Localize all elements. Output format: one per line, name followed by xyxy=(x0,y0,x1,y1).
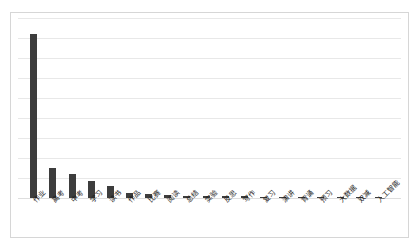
x-axis-labels: 作业高考中考学习读书作品比赛阅读总结实验反思写作复习演讲背诵预习大数据双减人工智… xyxy=(18,199,401,239)
chart-frame: 作业高考中考学习读书作品比赛阅读总结实验反思写作复习演讲背诵预习大数据双减人工智… xyxy=(10,12,409,238)
bars-layer xyxy=(18,18,401,198)
plot-area xyxy=(18,18,401,198)
bar xyxy=(30,34,37,198)
